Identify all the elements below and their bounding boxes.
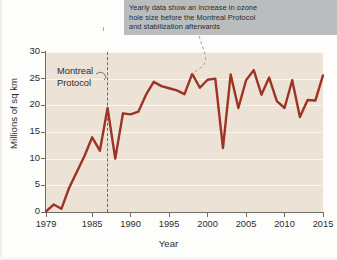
x-axis-tick: [323, 213, 324, 217]
x-axis-line: [45, 212, 324, 213]
gridline: [46, 132, 323, 133]
y-axis-tick-label: 0: [2, 205, 40, 216]
y-axis-tick-label: 5: [2, 178, 40, 189]
x-axis-tick: [246, 213, 247, 217]
y-axis-tick: [41, 158, 45, 159]
gridline: [46, 52, 323, 53]
y-axis-tick: [41, 105, 45, 106]
gridline: [46, 185, 323, 186]
y-axis-tick-label: 10: [2, 152, 40, 163]
y-axis-tick: [41, 78, 45, 79]
annotation-line-1: Yearly data show an increase in ozone: [129, 3, 333, 13]
x-axis-title: Year: [0, 238, 337, 249]
y-axis-tick-label: 20: [2, 98, 40, 109]
montreal-protocol-label: Montreal Protocol: [57, 66, 93, 89]
annotation-tick-mark: [103, 27, 104, 31]
x-axis-tick: [207, 213, 208, 217]
y-axis-tick: [41, 132, 45, 133]
gridline: [46, 105, 323, 106]
y-axis-tick: [41, 212, 45, 213]
annotation-line-3: and stabilization afterwards: [129, 22, 333, 32]
x-axis-tick: [284, 213, 285, 217]
x-axis-tick-label: 2000: [197, 219, 218, 229]
x-axis-tick-label: 1985: [82, 219, 103, 229]
y-axis-tick-labels: 051015202530: [0, 0, 40, 260]
y-axis-tick: [41, 52, 45, 53]
montreal-protocol-label-line1: Montreal: [57, 66, 93, 76]
y-axis-tick-label: 15: [2, 125, 40, 136]
x-axis-tick-label: 2010: [274, 219, 295, 229]
montreal-protocol-marker-line: [107, 52, 108, 212]
annotation-callout: Yearly data show an increase in ozone ho…: [124, 0, 337, 35]
x-axis-tick: [130, 213, 131, 217]
annotation-line-2: hole size before the Montreal Protocol: [129, 13, 333, 23]
x-axis-tick-label: 2015: [313, 219, 334, 229]
x-axis-tick: [169, 213, 170, 217]
y-axis-tick: [41, 185, 45, 186]
y-axis-tick-label: 25: [2, 72, 40, 83]
x-axis-tick-label: 1979: [36, 219, 57, 229]
ozone-hole-chart-figure: Yearly data show an increase in ozone ho…: [0, 0, 337, 260]
x-axis-tick-label: 2005: [236, 219, 257, 229]
x-axis-tick: [92, 213, 93, 217]
y-axis-line: [45, 51, 46, 213]
gridline: [46, 159, 323, 160]
x-axis-tick-label: 1995: [159, 219, 180, 229]
x-axis-tick-label: 1990: [120, 219, 141, 229]
x-axis-tick: [46, 213, 47, 217]
y-axis-tick-label: 30: [2, 45, 40, 56]
montreal-protocol-label-line2: Protocol: [57, 78, 91, 88]
